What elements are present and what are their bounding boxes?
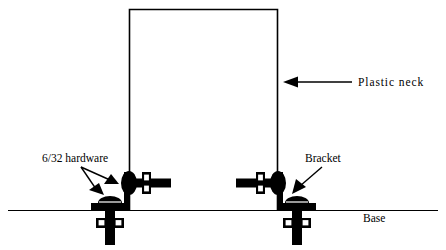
left-vertical-bolt-nut-face-left (98, 220, 105, 227)
right-vertical-bolt-nut-face-left (285, 220, 292, 227)
left-vertical-bolt (96, 196, 124, 245)
plastic-neck-annotation: Plastic neck (283, 76, 424, 88)
left-horizontal-bolt (121, 171, 171, 195)
plastic-neck-label: Plastic neck (358, 76, 424, 88)
base-annotation: Base (363, 212, 385, 224)
hardware-arrowhead-icon-2 (89, 183, 104, 195)
bracket-label: Bracket (305, 152, 342, 164)
right-horizontal-bolt-nut-face-bottom (258, 185, 264, 192)
left-horizontal-bolt-nut-face-top (144, 174, 150, 181)
assembly-diagram: Plastic neck 6/32 hardware Bracket Base (0, 0, 446, 250)
hardware-label: 6/32 hardware (42, 152, 108, 164)
diagram-canvas: Plastic neck 6/32 hardware Bracket Base (0, 0, 446, 250)
bracket-leader-line (300, 167, 322, 186)
hardware-annotation: 6/32 hardware (42, 152, 119, 195)
right-vertical-bolt-nut-face-right (302, 220, 309, 227)
bracket-arrowhead-icon (292, 179, 306, 194)
left-horizontal-bolt-nut-face-bottom (144, 185, 150, 192)
left-vertical-bolt-nut-face-right (115, 220, 122, 227)
right-vertical-bolt (283, 196, 311, 245)
bracket-annotation: Bracket (292, 152, 342, 194)
right-horizontal-bolt (236, 171, 286, 195)
base-label: Base (363, 212, 385, 224)
plastic-neck-arrowhead-icon (283, 77, 298, 88)
right-horizontal-bolt-nut-face-top (258, 174, 264, 181)
